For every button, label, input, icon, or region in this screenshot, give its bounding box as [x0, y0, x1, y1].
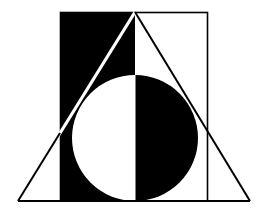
- geometric-logo: [0, 0, 260, 212]
